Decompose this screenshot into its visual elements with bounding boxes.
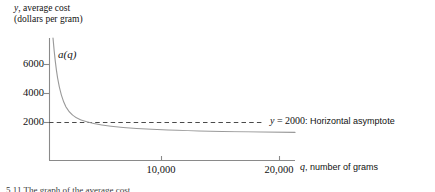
y-tick-label-2000: 2000 — [4, 116, 44, 128]
y-tick-label-6000: 6000 — [4, 58, 44, 70]
asymptote-equation: y = 2000 — [270, 115, 305, 126]
asymptote-annotation: y = 2000: Horizontal asymptote — [270, 115, 395, 127]
y-axis-title-text: , average cost — [18, 3, 70, 13]
asymptote-value: = 2000 — [274, 115, 305, 126]
curve-label-aq: a(q) — [58, 48, 76, 61]
x-axis-title-text: , number of grams — [305, 162, 378, 172]
figure-caption-clipped: 5.11 The graph of the average cost — [6, 185, 130, 192]
average-cost-figure: y, average cost (dollars per gram) 6000 … — [0, 0, 435, 192]
y-tick-label-4000: 4000 — [4, 87, 44, 99]
asymptote-note: : Horizontal asymptote — [305, 116, 395, 126]
x-axis-title: q, number of grams — [300, 161, 378, 173]
y-axis-title: y, average cost (dollars per gram) — [14, 3, 83, 25]
x-tick-label-10000: 10,000 — [131, 164, 191, 176]
y-axis-title-units: (dollars per gram) — [14, 14, 83, 25]
average-cost-curve — [53, 38, 295, 132]
